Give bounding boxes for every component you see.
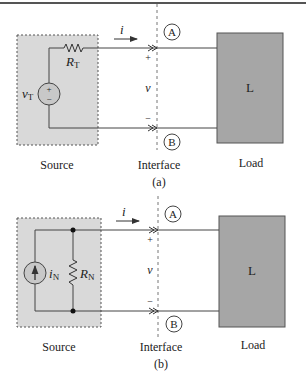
terminal-a-label-a: A: [168, 26, 176, 38]
figure-b: iN RN i + v − A B L Source Interface Loa…: [17, 196, 285, 371]
source-caption-b: Source: [42, 340, 75, 354]
source-caption-a: Source: [40, 158, 73, 172]
current-label-a: i: [120, 22, 124, 37]
source-minus-sign: −: [46, 94, 51, 104]
terminal-b-label-a: B: [168, 136, 175, 148]
terminal-b-label-b: B: [170, 318, 177, 330]
voltage-minus-b: −: [147, 296, 153, 307]
terminal-a-label-b: A: [169, 208, 177, 220]
voltage-minus-a: −: [145, 113, 151, 124]
figure-caption-a: (a): [152, 175, 165, 189]
circuit-diagram: + − vT RT i + v − A B L Source Interface…: [0, 0, 306, 388]
voltage-plus-b: +: [147, 234, 153, 245]
interface-caption-a: Interface: [138, 158, 181, 172]
figure-a: + − vT RT i + v − A B L Source Interface…: [17, 4, 283, 189]
source-plus-sign: +: [46, 84, 51, 94]
voltage-plus-a: +: [145, 52, 151, 63]
junction-dot-top: [71, 228, 76, 233]
voltage-label-b: v: [147, 263, 153, 277]
figure-caption-b: (b): [154, 357, 168, 371]
load-box-label-a: L: [246, 80, 254, 95]
load-caption-b: Load: [241, 338, 266, 352]
junction-dot-bottom: [71, 309, 76, 314]
load-box-label-b: L: [248, 263, 256, 278]
interface-caption-b: Interface: [140, 340, 183, 354]
voltage-label-a: v: [145, 81, 151, 95]
current-label-b: i: [122, 204, 126, 219]
load-caption-a: Load: [239, 156, 264, 170]
